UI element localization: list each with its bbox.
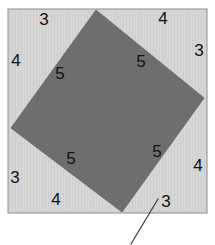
label-top-right-leg-4: 4	[158, 9, 167, 28]
label-bot-right-hyp-5: 5	[152, 142, 161, 161]
label-bottom-left-4: 4	[51, 190, 60, 209]
label-top-right-hyp-5: 5	[136, 52, 145, 71]
label-left-low-3: 3	[10, 168, 19, 187]
label-top-left-hyp-5: 5	[55, 64, 64, 83]
label-bottom-right-3: 3	[161, 192, 170, 211]
label-top-left-leg-3: 3	[39, 10, 48, 29]
diagram-canvas: 344355553443	[0, 0, 215, 245]
label-bot-left-hyp-5: 5	[66, 149, 75, 168]
geometry-figure: 344355553443	[0, 0, 215, 245]
label-right-low-4: 4	[193, 156, 202, 175]
label-left-leg-4: 4	[11, 51, 20, 70]
label-right-leg-3: 3	[194, 41, 203, 60]
